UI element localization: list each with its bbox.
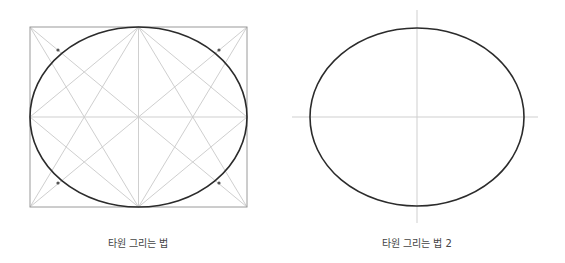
caption-figure-1: 타원 그리는 법 [108, 235, 168, 250]
ellipse-diagrams [0, 0, 565, 263]
figure-ellipse-method-1 [30, 27, 247, 207]
caption-figure-2: 타원 그리는 법 2 [382, 235, 452, 250]
figure-ellipse-method-2 [292, 10, 538, 223]
construction-guides [30, 27, 247, 207]
